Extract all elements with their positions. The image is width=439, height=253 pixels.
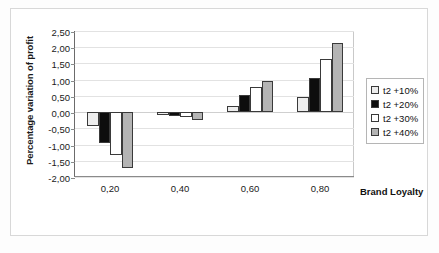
x-axis-tick-label: 0,20	[101, 183, 120, 194]
legend-item-label: t2 +20%	[383, 99, 418, 110]
bar	[332, 43, 344, 112]
gridline: -2,00	[75, 177, 354, 178]
legend-item[interactable]: t2 +30%	[371, 111, 418, 125]
bar	[99, 112, 111, 143]
legend-item-label: t2 +30%	[383, 113, 418, 124]
y-axis-tick-label: 0,50	[52, 91, 71, 102]
bar-group	[87, 31, 133, 176]
bar	[320, 59, 332, 113]
y-axis-tick-label: -1,00	[48, 140, 70, 151]
bar	[110, 112, 122, 155]
bar	[87, 112, 99, 126]
bar	[309, 78, 321, 112]
chart-legend: t2 +10%t2 +20%t2 +30%t2 +40%	[366, 78, 424, 144]
y-axis-tickmark	[71, 178, 75, 179]
y-axis-tick-label: -0,50	[48, 124, 70, 135]
y-axis-tick-label: 1,00	[52, 75, 71, 86]
legend-swatch-icon	[371, 86, 379, 94]
plot-area: 2,502,001,501,000,500,00-0,50-1,00-1,50-…	[74, 31, 354, 177]
legend-item[interactable]: t2 +10%	[371, 83, 418, 97]
y-axis-tick-label: 0,00	[52, 108, 71, 119]
legend-swatch-icon	[371, 114, 379, 122]
legend-swatch-icon	[371, 100, 379, 108]
bar	[239, 95, 251, 112]
x-axis-tick-label: 0,80	[311, 183, 330, 194]
bars-layer	[75, 31, 354, 176]
bar-group	[227, 31, 273, 176]
legend-swatch-icon	[371, 128, 379, 136]
x-axis-tick-label: 0,60	[241, 183, 260, 194]
y-axis-title: Percentage variation of profit	[24, 26, 35, 176]
y-axis-tick-label: 2,00	[52, 43, 71, 54]
legend-item-label: t2 +10%	[383, 85, 418, 96]
bar	[122, 112, 134, 168]
y-axis-tick-label: 1,50	[52, 59, 71, 70]
bar	[157, 112, 169, 115]
x-axis-title: Brand Loyalty	[360, 186, 423, 197]
bar-group	[157, 31, 203, 176]
bar	[192, 112, 204, 120]
bar	[227, 106, 239, 112]
bar-group	[297, 31, 343, 176]
y-axis-tick-label: -1,50	[48, 156, 70, 167]
bar	[297, 97, 309, 113]
x-axis-tick-label: 0,40	[171, 183, 190, 194]
bar	[250, 87, 262, 112]
y-axis-tick-label: 2,50	[52, 27, 71, 38]
legend-item[interactable]: t2 +40%	[371, 125, 418, 139]
bar	[169, 112, 181, 116]
legend-item[interactable]: t2 +20%	[371, 97, 418, 111]
chart-figure: Percentage variation of profit 2,502,001…	[0, 0, 439, 253]
bar	[180, 112, 192, 117]
y-axis-tick-label: -2,00	[48, 173, 70, 184]
legend-item-label: t2 +40%	[383, 127, 418, 138]
bar	[262, 81, 274, 112]
